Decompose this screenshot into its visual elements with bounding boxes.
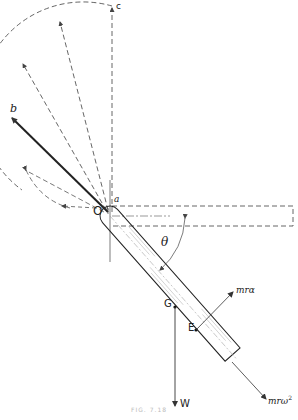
radial-line-1 <box>60 22 108 210</box>
horizontal-bar-outline <box>112 206 293 226</box>
centripetal-force-arrow <box>232 362 266 399</box>
radial-line-2 <box>23 64 106 210</box>
tangential-force-arrow <box>196 292 233 330</box>
label-mr-omega-squared: mrω2 <box>268 395 292 406</box>
label-a: a <box>114 195 119 204</box>
label-g: G <box>164 299 172 309</box>
label-theta: θ <box>161 236 168 248</box>
rotating-bar-diagram <box>0 0 298 420</box>
bar-position-b <box>12 118 108 212</box>
label-b: b <box>10 103 17 114</box>
label-mr-alpha: mrα <box>236 286 255 295</box>
label-e: E <box>188 323 194 333</box>
figure-caption: FIG. 7.18 <box>0 406 298 413</box>
inner-trajectory-arc <box>26 170 70 208</box>
label-c: c <box>116 2 121 11</box>
label-o: O <box>93 205 102 217</box>
